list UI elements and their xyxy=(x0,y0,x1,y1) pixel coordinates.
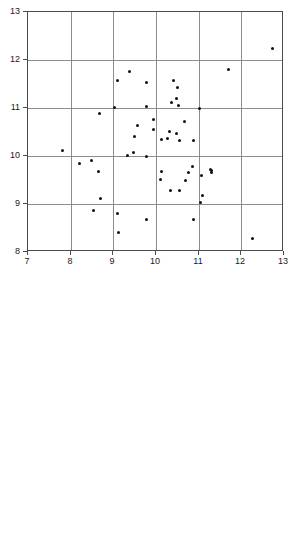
data-point xyxy=(178,189,181,192)
data-point xyxy=(198,107,201,110)
y-axis-tick xyxy=(23,203,27,204)
chart-panel-bottom: 67891011128910111213 xyxy=(0,271,298,543)
y-axis-label: 11 xyxy=(0,103,20,112)
gridline-vertical xyxy=(199,12,200,250)
data-point xyxy=(172,79,175,82)
gridline-vertical xyxy=(71,12,72,250)
data-point xyxy=(132,151,135,154)
gridline-vertical xyxy=(241,12,242,250)
data-point xyxy=(128,70,131,73)
data-point xyxy=(126,154,129,157)
data-point xyxy=(145,81,148,84)
data-point xyxy=(152,118,155,121)
y-axis-label: 12 xyxy=(0,55,20,64)
x-axis-tick xyxy=(155,251,156,255)
x-axis-label: 7 xyxy=(17,257,37,266)
x-axis-tick xyxy=(240,251,241,255)
data-point xyxy=(133,135,136,138)
y-axis-tick xyxy=(23,11,27,12)
x-axis-label: 9 xyxy=(102,257,122,266)
data-point xyxy=(160,170,163,173)
data-point xyxy=(177,104,180,107)
data-point xyxy=(227,68,230,71)
gridline-vertical xyxy=(156,12,157,250)
data-point xyxy=(169,189,172,192)
data-point xyxy=(97,170,100,173)
y-axis-label: 13 xyxy=(0,7,20,16)
data-point xyxy=(90,159,93,162)
data-point xyxy=(176,86,179,89)
data-point xyxy=(145,155,148,158)
data-point xyxy=(116,79,119,82)
data-point xyxy=(152,128,155,131)
x-axis-tick xyxy=(112,251,113,255)
data-point xyxy=(166,137,169,140)
y-axis-tick xyxy=(23,107,27,108)
data-point xyxy=(98,112,101,115)
data-point xyxy=(168,130,171,133)
data-point xyxy=(145,218,148,221)
data-point xyxy=(184,179,187,182)
x-axis-label: 11 xyxy=(188,257,208,266)
x-axis-label: 12 xyxy=(230,257,250,266)
data-point xyxy=(116,212,119,215)
y-axis-label: 8 xyxy=(0,247,20,256)
gridline-horizontal xyxy=(28,156,282,157)
data-point xyxy=(78,162,81,165)
data-point xyxy=(201,194,204,197)
y-axis-tick xyxy=(23,59,27,60)
data-point xyxy=(170,101,173,104)
x-axis-tick xyxy=(283,251,284,255)
x-axis-tick xyxy=(27,251,28,255)
x-axis-tick xyxy=(70,251,71,255)
data-point xyxy=(187,171,190,174)
y-axis-label: 10 xyxy=(0,151,20,160)
data-point xyxy=(175,97,178,100)
data-point xyxy=(175,132,178,135)
y-axis-label: 9 xyxy=(0,199,20,208)
plot-area-top xyxy=(27,11,283,251)
x-axis-label: 13 xyxy=(273,257,293,266)
data-point xyxy=(210,171,213,174)
gridline-horizontal xyxy=(28,204,282,205)
x-axis-label: 10 xyxy=(145,257,165,266)
data-point xyxy=(136,124,139,127)
data-point xyxy=(160,138,163,141)
y-axis-tick xyxy=(23,155,27,156)
chart-panel-top: 789101112138910111213 xyxy=(0,0,298,271)
data-point xyxy=(192,139,195,142)
data-point xyxy=(178,139,181,142)
data-point xyxy=(159,178,162,181)
data-point xyxy=(61,149,64,152)
data-point xyxy=(92,209,95,212)
gridline-horizontal xyxy=(28,60,282,61)
data-point xyxy=(251,237,254,240)
data-point xyxy=(271,47,274,50)
data-point xyxy=(117,231,120,234)
gridline-vertical xyxy=(113,12,114,250)
data-point xyxy=(200,174,203,177)
scatter-plot-figure: 789101112138910111213 678910111289101112… xyxy=(0,0,298,543)
data-point xyxy=(191,165,194,168)
x-axis-tick xyxy=(198,251,199,255)
data-point xyxy=(183,120,186,123)
x-axis-label: 8 xyxy=(60,257,80,266)
data-point xyxy=(192,218,195,221)
gridline-horizontal xyxy=(28,108,282,109)
data-point xyxy=(99,197,102,200)
y-axis-tick xyxy=(23,251,27,252)
